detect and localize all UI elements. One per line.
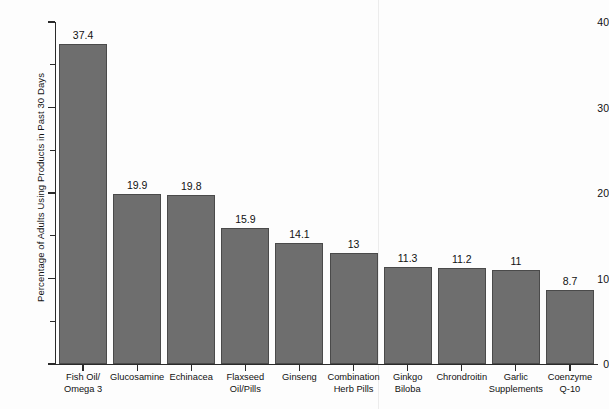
bar-value-label: 19.9 [107,179,167,191]
x-axis-tick [407,365,408,371]
bar [221,228,269,364]
x-axis-category-line: Biloba [375,384,441,396]
x-axis-tick [353,365,354,371]
bar-chart-figure: Percentage of Adults Using Products in P… [0,0,609,409]
x-axis-tick [461,365,462,371]
bar-value-label: 15.9 [215,213,275,225]
plot-area: 37.4Fish Oil/Omega 319.9Glucosamine19.8E… [0,0,609,409]
bar [167,195,215,364]
x-axis-tick [515,365,516,371]
bar-value-label: 11 [486,255,546,267]
bar-value-label: 11.3 [378,252,438,264]
bar [59,44,107,364]
x-axis-tick [299,365,300,371]
x-axis-tick [569,365,570,371]
bar-value-label: 8.7 [540,275,600,287]
bar [546,290,594,364]
bar [275,243,323,364]
bar [438,268,486,364]
bar-value-label: 19.8 [161,180,221,192]
bar-value-label: 37.4 [53,29,113,41]
x-axis-category-line: Oil/Pills [212,384,278,396]
bar [492,270,540,364]
bar [113,194,161,364]
x-axis-category-line: Coenzyme [537,372,603,384]
x-axis-category-line: Omega 3 [50,384,116,396]
x-axis-category-line: Q-10 [537,384,603,396]
x-axis-tick [245,365,246,371]
bar-value-label: 13 [324,238,384,250]
bar [330,253,378,364]
x-axis-category-label: CoenzymeQ-10 [537,372,603,395]
bar-value-label: 11.2 [432,253,492,265]
x-axis-tick [82,365,83,371]
bar [384,267,432,364]
bar-value-label: 14.1 [269,228,329,240]
x-axis-tick [191,365,192,371]
x-axis-tick [137,365,138,371]
